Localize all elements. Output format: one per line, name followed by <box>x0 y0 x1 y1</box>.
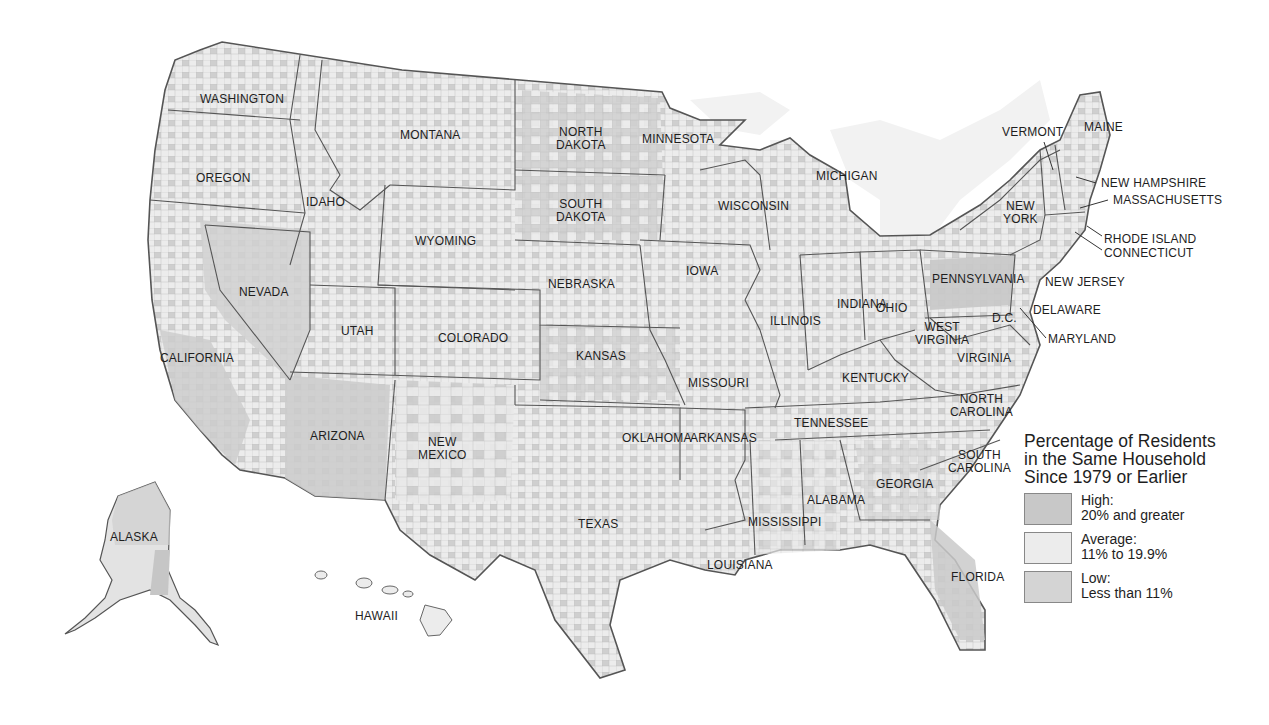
legend-label: High: <box>1081 493 1185 508</box>
label-kentucky: KENTUCKY <box>842 372 909 385</box>
label-arkansas: ARKANSAS <box>690 432 757 445</box>
legend-title-line: in the Same Household <box>1024 450 1254 468</box>
legend-range: Less than 11% <box>1081 586 1173 601</box>
label-wisconsin: WISCONSIN <box>718 200 789 213</box>
legend-swatch-average <box>1024 532 1072 564</box>
label-dc: D.C. <box>992 312 1017 325</box>
label-idaho: IDAHO <box>306 196 345 209</box>
label-connecticut: CONNECTICUT <box>1104 247 1194 260</box>
map-legend: Percentage of Residents in the Same Hous… <box>1024 432 1254 603</box>
label-new-york: NEWYORK <box>1003 200 1038 226</box>
legend-swatch-high <box>1024 493 1072 525</box>
label-kansas: KANSAS <box>576 350 626 363</box>
label-utah: UTAH <box>341 325 374 338</box>
legend-title: Percentage of Residents in the Same Hous… <box>1024 432 1254 486</box>
label-nevada: NEVADA <box>239 286 289 299</box>
label-wyoming: WYOMING <box>415 235 476 248</box>
label-maryland: MARYLAND <box>1048 333 1116 346</box>
label-mississippi: MISSISSIPPI <box>748 516 822 529</box>
label-illinois: ILLINOIS <box>770 315 821 328</box>
label-vermont: VERMONT <box>1002 126 1063 139</box>
label-hawaii: HAWAII <box>355 610 398 623</box>
label-new-mexico: NEWMEXICO <box>418 436 467 462</box>
label-ohio: OHIO <box>876 302 907 315</box>
label-alabama: ALABAMA <box>807 494 865 507</box>
legend-range: 11% to 19.9% <box>1081 547 1167 562</box>
label-south-dakota: SOUTHDAKOTA <box>556 198 606 224</box>
label-north-carolina: NORTHCAROLINA <box>950 393 1013 419</box>
label-new-hampshire: NEW HAMPSHIRE <box>1101 177 1206 190</box>
label-oregon: OREGON <box>196 172 251 185</box>
legend-title-line: Percentage of Residents <box>1024 432 1254 450</box>
label-west-virginia: WESTVIRGINIA <box>915 321 969 347</box>
legend-title-line: Since 1979 or Earlier <box>1024 468 1254 486</box>
label-rhode-island: RHODE ISLAND <box>1104 233 1196 246</box>
label-delaware: DELAWARE <box>1033 304 1101 317</box>
label-virginia: VIRGINIA <box>957 352 1011 365</box>
label-georgia: GEORGIA <box>876 478 933 491</box>
legend-item-high: High: 20% and greater <box>1024 493 1254 525</box>
legend-range: 20% and greater <box>1081 508 1185 523</box>
legend-item-low: Low: Less than 11% <box>1024 571 1254 603</box>
label-texas: TEXAS <box>578 518 618 531</box>
label-washington: WASHINGTON <box>200 93 284 106</box>
label-florida: FLORIDA <box>951 571 1004 584</box>
label-massachusetts: MASSACHUSETTS <box>1113 194 1222 207</box>
legend-label: Average: <box>1081 532 1167 547</box>
label-california: CALIFORNIA <box>160 352 234 365</box>
legend-label: Low: <box>1081 571 1173 586</box>
label-minnesota: MINNESOTA <box>642 133 714 146</box>
label-pennsylvania: PENNSYLVANIA <box>932 273 1025 286</box>
label-arizona: ARIZONA <box>310 430 365 443</box>
label-louisiana: LOUISIANA <box>707 559 773 572</box>
legend-item-average: Average: 11% to 19.9% <box>1024 532 1254 564</box>
label-nebraska: NEBRASKA <box>548 278 615 291</box>
label-montana: MONTANA <box>400 129 461 142</box>
label-north-dakota: NORTHDAKOTA <box>556 126 606 152</box>
label-alaska: ALASKA <box>110 531 158 544</box>
label-iowa: IOWA <box>686 265 718 278</box>
label-colorado: COLORADO <box>438 332 508 345</box>
label-missouri: MISSOURI <box>688 377 749 390</box>
label-maine: MAINE <box>1084 121 1123 134</box>
label-michigan: MICHIGAN <box>816 170 878 183</box>
label-tennessee: TENNESSEE <box>794 417 869 430</box>
alaska <box>65 482 218 645</box>
label-south-carolina: SOUTHCAROLINA <box>948 449 1011 475</box>
legend-swatch-low <box>1024 571 1072 603</box>
label-new-jersey: NEW JERSEY <box>1045 276 1125 289</box>
label-oklahoma: OKLAHOMA <box>622 432 692 445</box>
hawaii <box>315 571 452 636</box>
